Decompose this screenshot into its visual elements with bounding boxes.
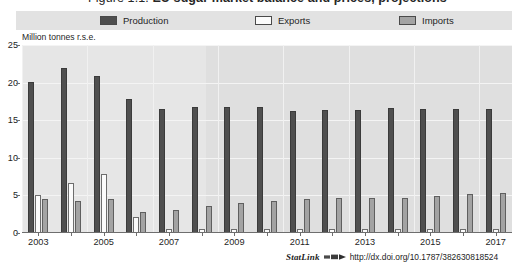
y-axis-tick — [16, 83, 20, 84]
bar-exports-2005[interactable] — [101, 174, 107, 233]
y-axis-tick — [16, 195, 20, 196]
bar-production-2011[interactable] — [290, 111, 296, 233]
bar-group — [22, 45, 55, 233]
bar-imports-2003[interactable] — [42, 199, 48, 233]
y-axis-unit-caption: Million tonnes r.s.e. — [22, 32, 96, 42]
y-axis-tick — [16, 233, 20, 234]
bar-imports-2016[interactable] — [467, 194, 473, 233]
bar-production-2004[interactable] — [61, 68, 67, 233]
bar-group — [349, 45, 382, 233]
bar-group — [316, 45, 349, 233]
x-axis-tick — [365, 233, 366, 236]
bar-imports-2005[interactable] — [108, 199, 114, 233]
bar-imports-2010[interactable] — [271, 201, 277, 233]
bar-group — [153, 45, 186, 233]
bar-imports-2012[interactable] — [336, 198, 342, 233]
bar-group — [218, 45, 251, 233]
bar-production-2017[interactable] — [486, 109, 492, 233]
bar-production-2013[interactable] — [355, 110, 361, 233]
x-axis-tick-label: 2009 — [224, 237, 244, 247]
statlink-glyph-icon — [324, 253, 346, 261]
bar-group — [120, 45, 153, 233]
bar-imports-2014[interactable] — [402, 198, 408, 233]
bar-group — [251, 45, 284, 233]
x-axis: 20032005200720092011201320152017 — [22, 233, 512, 251]
x-axis-tick — [169, 233, 170, 236]
bar-production-2015[interactable] — [420, 109, 426, 233]
bar-group — [55, 45, 88, 233]
x-axis-tick-label: 2017 — [485, 237, 505, 247]
legend-swatch-production-icon — [100, 16, 117, 25]
x-axis-tick — [202, 233, 203, 236]
y-axis-tick — [16, 120, 20, 121]
legend-item-imports[interactable]: Imports — [399, 14, 454, 27]
bar-production-2010[interactable] — [257, 107, 263, 233]
bar-production-2016[interactable] — [453, 109, 459, 233]
bar-exports-2003[interactable] — [35, 195, 41, 233]
legend-swatch-exports-icon — [255, 16, 272, 25]
bar-production-2008[interactable] — [192, 107, 198, 233]
bar-imports-2011[interactable] — [304, 199, 310, 233]
legend-item-exports[interactable]: Exports — [255, 14, 310, 27]
x-axis-tick — [496, 233, 497, 236]
legend-item-production[interactable]: Production — [100, 14, 168, 27]
bar-group — [414, 45, 447, 233]
x-axis-tick — [136, 233, 137, 236]
legend-label-exports: Exports — [278, 15, 310, 26]
figure-title-strip: Figure 1.1. EU sugar market balance and … — [0, 0, 528, 11]
bar-group — [447, 45, 480, 233]
x-axis-tick-label: 2013 — [355, 237, 375, 247]
x-axis-tick-label: 2007 — [159, 237, 179, 247]
legend-swatch-imports-icon — [399, 16, 416, 25]
legend-label-production: Production — [123, 15, 168, 26]
x-axis-tick-label: 2011 — [290, 237, 310, 247]
bar-imports-2007[interactable] — [173, 210, 179, 233]
chart-legend: Production Exports Imports — [16, 11, 512, 30]
bar-imports-2006[interactable] — [140, 212, 146, 233]
figure-title-text: EU sugar market balance and prices, proj… — [152, 0, 446, 5]
bar-imports-2008[interactable] — [206, 206, 212, 233]
y-axis: 0510152025 — [0, 45, 20, 233]
x-axis-tick — [332, 233, 333, 236]
bar-production-2007[interactable] — [159, 109, 165, 233]
statlink-footer[interactable]: StatLink http://dx.doi.org/10.1787/38263… — [286, 252, 498, 262]
bar-imports-2017[interactable] — [500, 193, 506, 233]
chart-plot-area — [22, 45, 512, 233]
bar-group — [87, 45, 120, 233]
bar-production-2005[interactable] — [94, 76, 100, 233]
x-axis-tick-label: 2005 — [93, 237, 113, 247]
bar-group — [479, 45, 512, 233]
x-axis-tick — [234, 233, 235, 236]
bar-group — [185, 45, 218, 233]
bar-group — [381, 45, 414, 233]
figure-title: Figure 1.1. EU sugar market balance and … — [88, 0, 447, 5]
figure-number: Figure 1.1. — [88, 0, 149, 5]
legend-label-imports: Imports — [422, 15, 454, 26]
y-axis-tick — [16, 45, 20, 46]
bar-production-2012[interactable] — [322, 110, 328, 233]
bar-group — [283, 45, 316, 233]
x-axis-tick — [38, 233, 39, 236]
x-axis-tick — [104, 233, 105, 236]
bar-imports-2015[interactable] — [434, 196, 440, 233]
x-axis-tick-label: 2015 — [420, 237, 440, 247]
x-axis-tick — [398, 233, 399, 236]
x-axis-tick — [267, 233, 268, 236]
bar-exports-2004[interactable] — [68, 183, 74, 233]
bar-imports-2004[interactable] — [75, 201, 81, 233]
y-axis-tick — [16, 158, 20, 159]
statlink-label: StatLink — [286, 252, 320, 262]
x-axis-tick — [71, 233, 72, 236]
bar-production-2003[interactable] — [28, 82, 34, 233]
bar-imports-2009[interactable] — [238, 203, 244, 233]
statlink-url[interactable]: http://dx.doi.org/10.1787/382630818524 — [350, 252, 499, 262]
x-axis-tick — [463, 233, 464, 236]
x-axis-tick — [430, 233, 431, 236]
bar-production-2006[interactable] — [126, 99, 132, 233]
x-axis-tick — [300, 233, 301, 236]
bar-production-2014[interactable] — [388, 108, 394, 233]
x-axis-tick-label: 2003 — [28, 237, 48, 247]
bar-exports-2006[interactable] — [133, 217, 139, 233]
bar-production-2009[interactable] — [224, 107, 230, 233]
bar-imports-2013[interactable] — [369, 198, 375, 233]
